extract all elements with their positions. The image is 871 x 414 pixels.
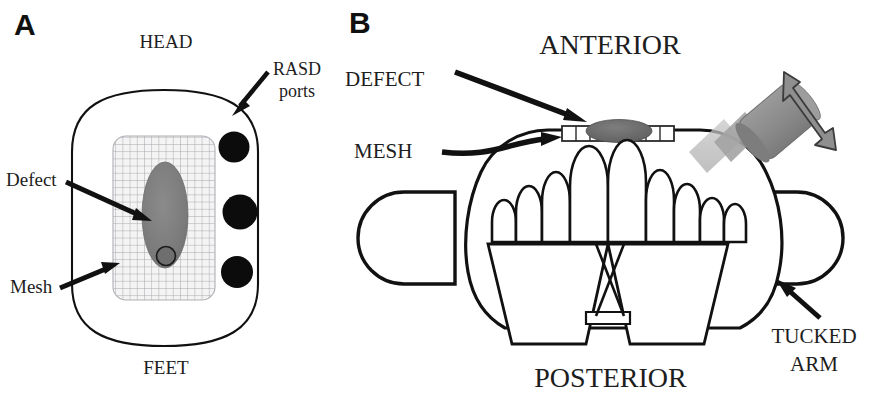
panel-b-defect: [586, 120, 652, 143]
figure-root: A B: [0, 0, 871, 414]
panel-b-tucked-arm-left: [358, 192, 455, 284]
label-tucked-arm-line1: TUCKED: [758, 325, 870, 348]
label-anterior: ANTERIOR: [490, 30, 730, 60]
label-defect-b: DEFECT: [345, 68, 424, 91]
panel-b-defect-arrow: [455, 72, 587, 122]
panel-b-illustration: [0, 0, 871, 414]
label-posterior: POSTERIOR: [483, 363, 738, 393]
label-tucked-arm-line2: ARM: [758, 353, 870, 376]
label-mesh-b: MESH: [354, 140, 412, 163]
